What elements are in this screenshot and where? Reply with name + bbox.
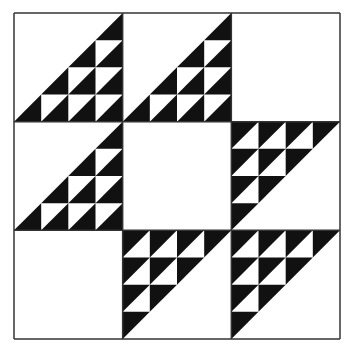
black-triangle [96,122,123,149]
black-triangle [150,230,177,257]
black-triangle [204,40,231,67]
quilt-grid-lines [14,13,340,339]
black-triangle [204,67,231,94]
black-triangle [313,122,340,149]
black-triangle [96,149,123,176]
black-triangle [313,230,340,257]
black-triangle [96,176,123,203]
black-triangle [150,258,177,285]
black-triangle [177,230,204,257]
black-triangle [259,285,286,312]
black-triangle [96,40,123,67]
black-triangle [41,203,68,230]
black-triangle [96,203,123,230]
black-triangle [231,149,258,176]
black-triangle [68,95,95,122]
black-triangle [68,149,95,176]
black-triangle [259,149,286,176]
black-triangle [123,312,150,339]
black-triangle [286,149,313,176]
black-triangle [177,67,204,94]
black-triangle [68,176,95,203]
black-triangle [259,176,286,203]
black-triangle [231,230,258,257]
black-triangle [231,122,258,149]
black-triangle [259,258,286,285]
black-triangle [150,67,177,94]
black-triangle [286,230,313,257]
black-triangle [150,285,177,312]
black-triangle [41,95,68,122]
black-triangle [259,230,286,257]
black-triangle [231,203,258,230]
black-triangle [41,67,68,94]
black-triangle [231,285,258,312]
black-triangle [14,203,41,230]
black-triangle [286,122,313,149]
black-triangle [96,95,123,122]
black-triangle [177,95,204,122]
black-triangle [68,67,95,94]
quilt-block-figure [0,0,355,345]
black-triangle [123,95,150,122]
black-triangle [96,67,123,94]
black-triangle [96,13,123,40]
black-triangle [231,312,258,339]
black-triangle [204,13,231,40]
black-triangle [259,122,286,149]
black-triangle [123,285,150,312]
black-triangle [123,230,150,257]
black-triangle [68,40,95,67]
quilt-cells [14,13,340,339]
black-triangle [150,95,177,122]
black-triangle [14,95,41,122]
black-triangle [68,203,95,230]
black-triangle [231,258,258,285]
black-triangle [177,258,204,285]
black-triangle [204,230,231,257]
black-triangle [123,258,150,285]
black-triangle [231,176,258,203]
black-triangle [286,258,313,285]
black-triangle [41,176,68,203]
black-triangle [177,40,204,67]
black-triangle [204,95,231,122]
